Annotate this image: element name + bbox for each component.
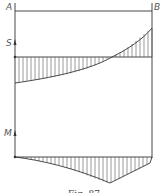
label-m: M — [4, 128, 12, 138]
bending-moment-diagram — [14, 156, 152, 183]
label-a: A — [5, 2, 12, 12]
label-b: B — [154, 2, 160, 12]
beam-diagram-figure: A B S M — [0, 0, 161, 193]
m-arrow-icon — [14, 130, 17, 136]
shear-force-diagram — [14, 28, 152, 83]
figure-caption: Fig. 87 — [68, 189, 100, 193]
label-s: S — [6, 38, 12, 48]
s-arrow-icon — [14, 39, 17, 45]
